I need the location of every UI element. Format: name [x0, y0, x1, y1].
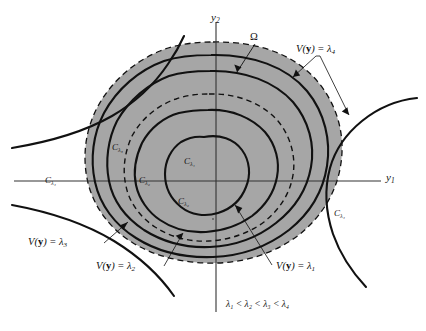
- contour-label-c-lambda1: Cλ₁: [184, 157, 195, 167]
- level-label-lambda4: V(y) = λ4: [296, 44, 335, 56]
- omega-region-label: Ω: [250, 32, 258, 43]
- level-label-lambda1: V(y) = λ1: [276, 261, 315, 273]
- figure-canvas: [0, 0, 426, 331]
- contour-label-c-lambda4-left: Cλ₄: [45, 176, 56, 186]
- lambda-ordering-caption: λ₁ < λ₂ < λ₃ < λ₄: [226, 300, 289, 310]
- contour-label-c-lambda3-left: Cλ₃: [112, 143, 123, 153]
- level-label-lambda2: V(y) = λ2: [96, 261, 135, 273]
- y1-axis-label: y1: [386, 172, 395, 184]
- contour-label-c-lambda2-inner: Cλ₂: [178, 197, 189, 207]
- y2-axis-label: y2: [211, 12, 220, 24]
- contour-label-c-lambda4-right: Cλ₄: [334, 209, 345, 219]
- lyapunov-level-set-figure: y2 y1 Ω V(y) = λ4 V(y) = λ3 V(y) = λ2 V(…: [0, 0, 426, 331]
- level-label-lambda3: V(y) = λ3: [28, 237, 67, 249]
- curve-c-lambda4-right: [326, 98, 417, 287]
- contour-label-c-lambda2-left: Cλ₂: [139, 176, 150, 186]
- origin-dot-marker: [212, 218, 214, 220]
